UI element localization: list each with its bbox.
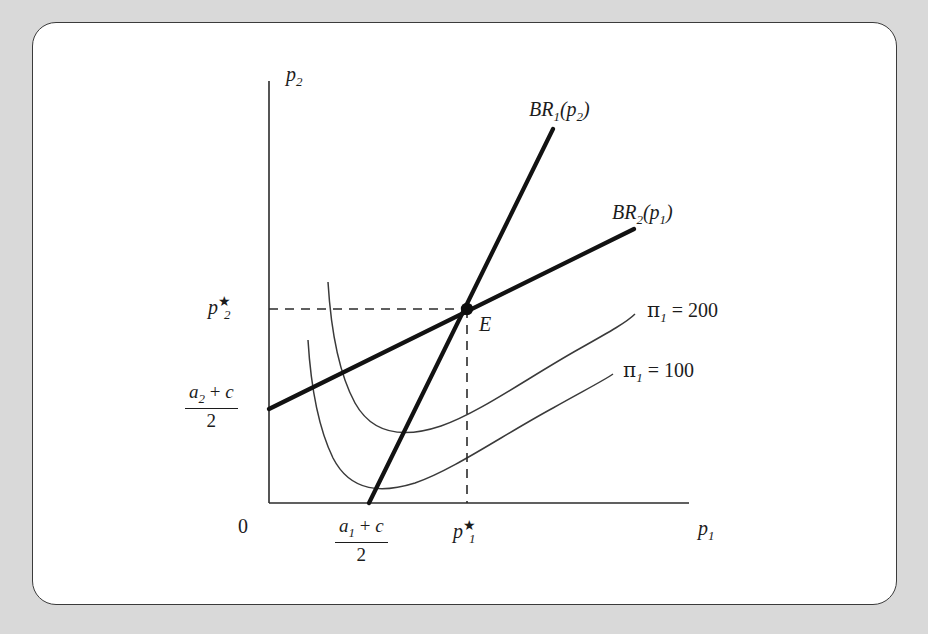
p1-star-tick-label: p★1: [453, 517, 476, 547]
origin-label-text: 0: [238, 515, 248, 537]
y-intercept-fraction: a2 + c 2: [185, 381, 238, 432]
best-response-line-br2: [269, 229, 634, 409]
isoprofit-curve-100: [308, 340, 613, 489]
br2-curve-label: BR2(p1): [612, 201, 673, 228]
isoprofit-200-equals: =: [667, 299, 688, 321]
br1-paren-close: ): [583, 98, 590, 120]
br2-paren-close: ): [666, 201, 673, 223]
y-intercept-numerator: a2 + c: [185, 381, 238, 409]
isoprofit-100-equals: =: [643, 359, 664, 381]
br1-curve-label: BR1(p2): [529, 98, 590, 125]
x-intercept-fraction: a1 + c 2: [335, 515, 388, 566]
figure-caption-fragment: [0, 0, 928, 14]
isoprofit-100-value: 100: [664, 359, 694, 381]
equilibrium-label: E: [479, 313, 491, 336]
y-intercept-denominator: 2: [185, 409, 238, 432]
figure-panel: p2 p1 0 p★2 p★1 BR1(p2) BR2(p1) E π1 = 2…: [32, 22, 897, 605]
y-axis-label-symbol: p: [286, 63, 296, 85]
x-axis-label-subscript: 1: [708, 528, 715, 543]
y-intercept-a: a: [189, 381, 199, 402]
best-response-line-br1: [369, 129, 553, 503]
isoprofit-100-pi: π: [623, 358, 636, 382]
isoprofit-label-100: π1 = 100: [623, 358, 694, 386]
x-intercept-c: c: [375, 515, 383, 536]
x-intercept-operator: +: [355, 515, 375, 536]
p2-star-subscript: 2: [224, 307, 231, 322]
isoprofit-label-200: π1 = 200: [647, 298, 718, 326]
br2-argument: p: [650, 201, 660, 223]
p1-star-subscript: 1: [469, 531, 476, 546]
x-intercept-denominator: 2: [335, 543, 388, 566]
x-axis-label-symbol: p: [698, 517, 708, 539]
br1-paren-open: (: [560, 98, 567, 120]
x-intercept-a: a: [339, 515, 349, 536]
x-intercept-numerator: a1 + c: [335, 515, 388, 543]
br2-name: BR: [612, 201, 636, 223]
p1-star-symbol: p: [453, 520, 463, 542]
br2-paren-open: (: [643, 201, 650, 223]
y-intercept-c: c: [225, 381, 233, 402]
p2-star-tick-label: p★2: [208, 293, 231, 323]
y-axis-label: p2: [286, 63, 303, 90]
isoprofit-200-value: 200: [688, 299, 718, 321]
isoprofit-200-pi: π: [647, 298, 660, 322]
br1-argument: p: [567, 98, 577, 120]
y-axis-label-subscript: 2: [296, 74, 303, 89]
p2-star-symbol: p: [208, 296, 218, 318]
equilibrium-label-text: E: [479, 313, 491, 335]
y-intercept-operator: +: [205, 381, 225, 402]
equilibrium-point-dot: [461, 303, 473, 315]
x-axis-label: p1: [698, 517, 715, 544]
br1-name: BR: [529, 98, 553, 120]
origin-label: 0: [238, 515, 248, 538]
